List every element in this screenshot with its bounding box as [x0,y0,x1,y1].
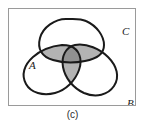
venn-diagram-frame: A B C [8,8,136,106]
set-label-c: C [122,26,129,37]
figure-container: A B C (c) [0,0,145,127]
venn-diagram-svg [9,9,135,105]
set-label-b: B [127,98,134,106]
figure-caption: (c) [0,109,145,121]
set-label-a: A [29,60,36,71]
